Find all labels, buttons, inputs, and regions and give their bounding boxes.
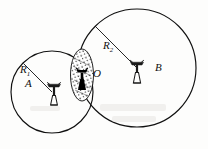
antenna-tower-icon-b [130,60,144,83]
diagram-canvas [0,0,208,149]
cell-label-b: B [155,62,162,73]
cell-label-a: A [25,78,32,89]
radius-label-r1: R1 [20,64,30,78]
coverage-diagram: R1 A R2 B O [0,0,208,149]
overlap-label-o: O [93,68,101,79]
antenna-tower-icon-a [47,82,61,105]
radius-line-r2 [95,26,137,68]
radius-label-r2: R2 [103,40,113,54]
